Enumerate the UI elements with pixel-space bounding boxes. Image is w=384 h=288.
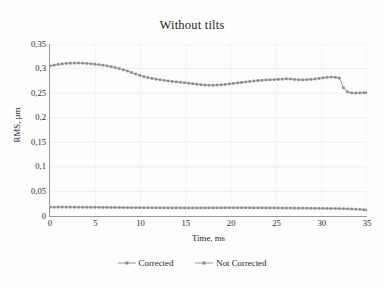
data-point xyxy=(257,207,260,210)
data-point xyxy=(285,77,288,80)
data-point xyxy=(289,207,292,210)
data-point xyxy=(126,206,129,209)
data-point xyxy=(281,78,284,81)
x-tick-label: 25 xyxy=(263,219,289,228)
x-tick-label: 15 xyxy=(173,219,199,228)
data-point xyxy=(118,67,121,70)
data-point xyxy=(330,207,333,210)
data-point xyxy=(297,207,300,210)
data-point xyxy=(106,206,109,209)
data-point xyxy=(216,207,219,210)
chart-legend: CorrectedNot Corrected xyxy=(0,259,384,268)
data-point xyxy=(81,62,84,65)
data-point xyxy=(366,209,367,212)
data-point xyxy=(318,77,321,80)
data-point xyxy=(301,207,304,210)
data-point xyxy=(301,78,304,81)
data-point xyxy=(350,92,353,95)
data-point xyxy=(285,207,288,210)
data-point xyxy=(244,206,247,209)
data-point xyxy=(179,207,182,210)
data-point xyxy=(354,208,357,211)
data-point xyxy=(273,207,276,210)
data-point xyxy=(57,206,60,209)
data-point xyxy=(57,63,60,66)
data-point xyxy=(191,82,194,85)
data-point xyxy=(220,83,223,86)
data-point xyxy=(318,207,321,210)
data-point xyxy=(94,63,97,66)
data-point xyxy=(200,207,203,210)
data-point xyxy=(334,207,337,210)
data-point xyxy=(195,83,198,86)
y-axis-tick-labels: 0,350,30,250,20,150,10,050 xyxy=(8,0,46,288)
data-point xyxy=(106,65,109,68)
data-point xyxy=(248,206,251,209)
y-tick-label: 0,1 xyxy=(12,162,46,171)
data-point xyxy=(50,65,51,68)
data-point xyxy=(142,75,145,78)
data-point xyxy=(314,78,317,81)
data-point xyxy=(85,62,88,65)
data-point xyxy=(350,208,353,211)
data-point xyxy=(228,83,231,86)
data-point xyxy=(269,207,272,210)
data-point xyxy=(224,83,227,86)
data-point xyxy=(212,207,215,210)
data-point xyxy=(326,207,329,210)
data-point xyxy=(269,78,272,81)
data-point xyxy=(163,79,166,82)
y-tick-label: 0,3 xyxy=(12,64,46,73)
data-point xyxy=(89,62,92,65)
data-point xyxy=(134,73,137,76)
data-point xyxy=(163,207,166,210)
legend-item-1[interactable]: Corrected xyxy=(118,259,174,268)
data-point xyxy=(122,206,125,209)
data-point xyxy=(338,207,341,210)
data-point xyxy=(305,78,308,81)
data-point xyxy=(187,82,190,85)
data-point xyxy=(183,81,186,84)
data-point xyxy=(212,84,215,87)
data-point xyxy=(147,206,150,209)
legend-label: Not Corrected xyxy=(216,259,266,268)
data-point xyxy=(130,71,133,74)
data-point xyxy=(293,207,296,210)
data-point xyxy=(346,208,349,211)
data-point xyxy=(187,207,190,210)
legend-item-2[interactable]: Not Corrected xyxy=(195,259,266,268)
data-point xyxy=(277,207,280,210)
chart-canvas xyxy=(50,44,367,216)
data-point xyxy=(204,207,207,210)
data-point xyxy=(261,207,264,210)
data-point xyxy=(147,76,150,79)
data-point xyxy=(310,207,313,210)
data-point xyxy=(363,208,366,211)
data-point xyxy=(257,79,260,82)
data-point xyxy=(175,207,178,210)
series-1 xyxy=(50,206,367,212)
data-point xyxy=(244,81,247,84)
data-point xyxy=(216,84,219,87)
legend-marker-icon xyxy=(195,259,213,267)
data-point xyxy=(366,91,367,94)
data-point xyxy=(98,206,101,209)
data-point xyxy=(73,206,76,209)
y-tick-label: 0,05 xyxy=(12,187,46,196)
data-point xyxy=(179,81,182,84)
x-tick-label: 20 xyxy=(218,219,244,228)
y-tick-label: 0,2 xyxy=(12,113,46,122)
data-point xyxy=(265,207,268,210)
data-point xyxy=(171,80,174,83)
data-point xyxy=(240,206,243,209)
data-point xyxy=(289,78,292,81)
data-point xyxy=(167,207,170,210)
data-point xyxy=(114,206,117,209)
data-point xyxy=(77,62,80,65)
data-point xyxy=(110,206,113,209)
data-point xyxy=(322,77,325,80)
legend-marker-icon xyxy=(118,259,136,267)
data-point xyxy=(159,78,162,81)
data-point xyxy=(273,78,276,81)
data-point xyxy=(208,84,211,87)
